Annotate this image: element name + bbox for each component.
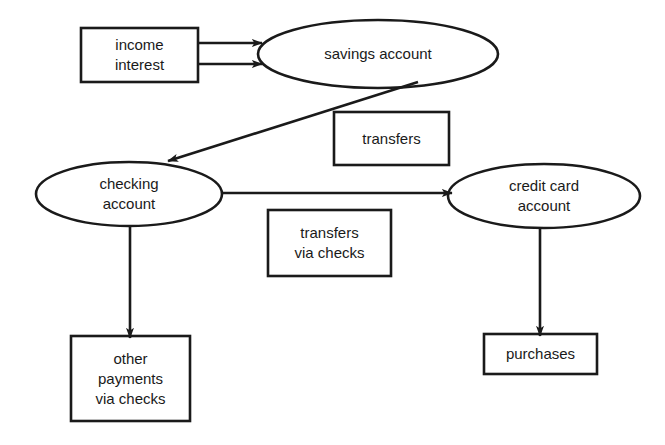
diagram-canvas: income interest savings account transfer… [0,0,665,445]
node-checking-account [36,162,222,226]
node-savings-account [258,20,498,88]
node-credit-card-account [448,164,640,228]
node-purchases [484,334,597,374]
node-income-interest [81,28,198,82]
diagram-graphics [0,0,665,445]
node-other-payments-via-checks [71,336,190,421]
node-transfers-via-checks [268,210,391,276]
node-transfers [334,112,449,165]
